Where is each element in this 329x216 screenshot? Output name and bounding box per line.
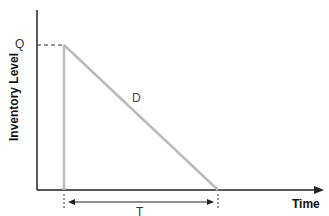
- arrow-right-icon: [207, 199, 214, 205]
- inventory-diagram: [0, 0, 329, 216]
- level-q-label: Q: [15, 37, 24, 51]
- x-axis-arrow-icon: [314, 186, 324, 194]
- demand-d-label: D: [132, 91, 141, 105]
- demand-line: [64, 45, 218, 190]
- x-axis-label: Time: [292, 197, 320, 211]
- arrow-left-icon: [68, 199, 75, 205]
- period-t-label: T: [136, 205, 143, 216]
- y-axis-label: Inventory Level: [7, 42, 21, 152]
